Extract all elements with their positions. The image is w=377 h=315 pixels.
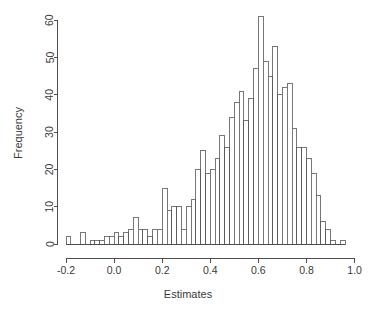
histogram-bar — [138, 229, 143, 244]
histogram-bar — [95, 240, 100, 244]
histogram-bar — [90, 240, 95, 244]
x-tick-label: -0.2 — [57, 264, 75, 276]
histogram-bar — [143, 229, 148, 244]
histogram-bar — [114, 233, 119, 244]
histogram-bar — [225, 147, 230, 244]
histogram-bar — [206, 173, 211, 244]
histogram-bar — [148, 237, 153, 244]
histogram-bar — [109, 237, 114, 244]
histogram-bar — [210, 169, 215, 244]
histogram-bar — [153, 229, 158, 244]
x-tick-label: 0.8 — [299, 264, 314, 276]
histogram-bar — [186, 207, 191, 244]
histogram-bar — [287, 84, 292, 244]
histogram-bar — [297, 147, 302, 244]
histogram-bar — [230, 117, 235, 244]
histogram-bar — [157, 229, 162, 244]
histogram-bar — [129, 229, 134, 244]
histogram-bar — [172, 207, 177, 244]
histogram-bar — [201, 151, 206, 244]
histogram-bar — [331, 240, 336, 244]
histogram-bar — [282, 87, 287, 244]
x-tick-label: 1.0 — [347, 264, 362, 276]
x-tick-label: 0.0 — [107, 264, 122, 276]
histogram-bar — [258, 16, 263, 244]
y-tick-label: 50 — [44, 52, 56, 64]
histogram-bar — [340, 240, 345, 244]
x-tick-label: 0.6 — [251, 264, 266, 276]
x-tick-label: 0.2 — [155, 264, 170, 276]
y-tick-label: 40 — [44, 89, 56, 101]
histogram-bar — [181, 229, 186, 244]
histogram-bar — [302, 147, 307, 244]
y-tick-label: 10 — [44, 201, 56, 213]
y-tick-label: 60 — [44, 14, 56, 26]
histogram-plot: 0102030405060 -0.20.00.20.40.60.81.0 Est… — [0, 0, 377, 315]
histogram-bar — [177, 207, 182, 244]
histogram-bar — [220, 136, 225, 244]
histogram-bar — [66, 237, 71, 244]
histogram-bars — [66, 16, 345, 244]
histogram-bar — [292, 128, 297, 244]
histogram-bar — [321, 222, 326, 244]
histogram-bar — [254, 69, 259, 244]
y-tick-label: 30 — [44, 126, 56, 138]
histogram-bar — [239, 91, 244, 244]
histogram-bar — [244, 121, 249, 244]
histogram-bar — [316, 196, 321, 244]
histogram-bar — [124, 233, 129, 244]
x-axis — [66, 259, 355, 263]
histogram-bar — [196, 169, 201, 244]
histogram-bar — [268, 76, 273, 244]
histogram-bar — [167, 210, 172, 244]
histogram-bar — [278, 95, 283, 244]
histogram-bar — [191, 199, 196, 244]
histogram-bar — [311, 173, 316, 244]
histogram-bar — [119, 237, 124, 244]
histogram-bar — [273, 46, 278, 244]
y-tick-label: 0 — [44, 241, 56, 247]
histogram-bar — [326, 229, 331, 244]
y-tick-labels: 0102030405060 — [44, 14, 56, 247]
histogram-bar — [162, 188, 167, 244]
x-tick-labels: -0.20.00.20.40.60.81.0 — [57, 264, 362, 276]
histogram-bar — [104, 237, 109, 244]
histogram-bar — [249, 99, 254, 244]
x-axis-title: Estimates — [164, 288, 213, 300]
chart-canvas: 0102030405060 -0.20.00.20.40.60.81.0 Est… — [0, 0, 377, 315]
histogram-bar — [215, 158, 220, 244]
histogram-bar — [307, 158, 312, 244]
histogram-bar — [133, 218, 138, 244]
y-axis-title: Frequency — [12, 107, 24, 159]
histogram-bar — [80, 233, 85, 244]
y-tick-label: 20 — [44, 163, 56, 175]
histogram-bar — [234, 102, 239, 244]
x-tick-label: 0.4 — [203, 264, 218, 276]
histogram-bar — [263, 61, 268, 244]
histogram-bar — [100, 240, 105, 244]
